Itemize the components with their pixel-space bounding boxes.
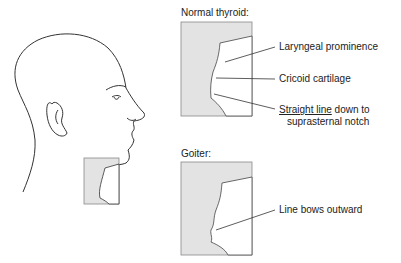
label-straight-line: Straight line down to (279, 104, 370, 115)
head-profile (15, 34, 145, 192)
label-line-bows-outward: Line bows outward (279, 204, 362, 215)
ear (47, 102, 67, 136)
label-cricoid-cartilage: Cricoid cartilage (279, 73, 351, 84)
eye (112, 96, 121, 100)
label-suprasternal-notch: suprasternal notch (287, 116, 369, 127)
thyroid-diagram: Normal thyroid: Laryngeal prominence Cri… (0, 0, 401, 263)
label-laryngeal-prominence: Laryngeal prominence (279, 41, 378, 52)
eyebrow (106, 86, 126, 90)
goiter-title: Goiter: (181, 148, 211, 159)
neck-inset (84, 158, 119, 204)
label-straight-line-underlined: Straight line (279, 104, 332, 115)
normal-thyroid-panel: Normal thyroid: Laryngeal prominence Cri… (181, 7, 378, 127)
nostril (127, 118, 136, 120)
goiter-panel: Goiter: Line bows outward (181, 148, 362, 255)
ear-inner (56, 110, 58, 124)
label-straight-line-rest: down to (332, 104, 370, 115)
normal-thyroid-title: Normal thyroid: (181, 7, 249, 18)
head-outline (15, 34, 145, 192)
